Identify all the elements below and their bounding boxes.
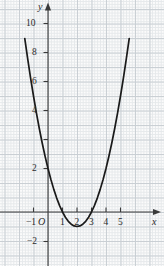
y-tick-label-2: 2 <box>32 164 37 174</box>
y-tick-label-8: 8 <box>32 48 37 58</box>
x-tick-label-5: 5 <box>118 218 123 228</box>
y-tick-label-minus-2: −2 <box>27 237 37 247</box>
x-axis-ticks <box>34 208 121 213</box>
y-axis-arrowhead <box>45 3 51 11</box>
parabola-graph-figure: 10 8 6 4 2 −2 −1 1 2 3 4 5 O x y <box>0 0 164 275</box>
x-tick-label-minus-1: −1 <box>26 218 36 228</box>
y-tick-label-10: 10 <box>26 19 36 29</box>
parabola-curve <box>25 39 129 227</box>
x-axis-label: x <box>152 217 156 227</box>
y-tick-label-6: 6 <box>32 77 37 87</box>
graph-plot-area <box>0 0 164 275</box>
x-tick-label-1: 1 <box>60 218 65 228</box>
x-tick-label-2: 2 <box>75 218 80 228</box>
y-tick-label-4: 4 <box>32 106 37 116</box>
x-tick-label-3: 3 <box>89 218 94 228</box>
x-tick-label-4: 4 <box>104 218 109 228</box>
x-axis-arrowhead <box>153 209 161 215</box>
y-axis-ticks <box>44 24 49 242</box>
origin-label: O <box>38 217 45 227</box>
y-axis-label: y <box>38 2 42 12</box>
